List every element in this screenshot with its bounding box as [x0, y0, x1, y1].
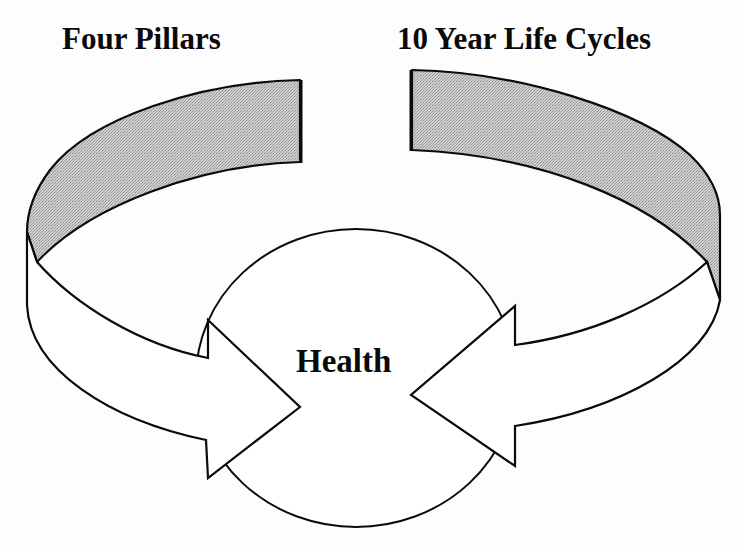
diagram-graphic — [0, 0, 744, 548]
health-label: Health — [296, 345, 391, 378]
left-arrow-shaded-band — [27, 80, 300, 262]
life-cycles-label: 10 Year Life Cycles — [397, 23, 651, 54]
four-pillars-label: Four Pillars — [62, 23, 221, 54]
diagram-canvas: Four Pillars 10 Year Life Cycles Health — [0, 0, 744, 548]
